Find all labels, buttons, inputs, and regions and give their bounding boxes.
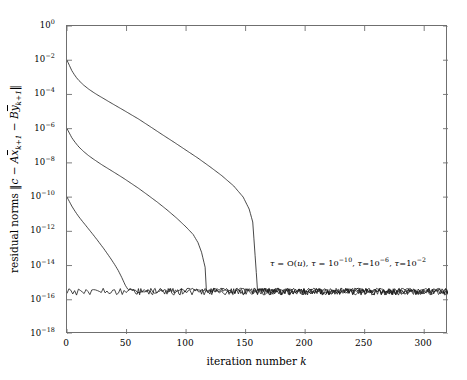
- y-tick-label: 10−14: [30, 260, 55, 270]
- plot-area: [66, 25, 447, 333]
- y-axis-label-container: residual norms ‖c − Axk+1 − Byk+1‖: [4, 25, 24, 333]
- x-tick-label: 300: [415, 338, 432, 348]
- y-tick-label: 10−8: [34, 157, 55, 167]
- curve-tau-10-10: [67, 197, 448, 295]
- curve-annotation-labels: τ = O(u), τ = 10−10, τ=10−6, τ=10−2: [270, 258, 426, 268]
- figure-canvas: 10010−210−410−610−810−1010−1210−1410−161…: [0, 0, 467, 380]
- y-tick-label: 10−4: [34, 88, 55, 98]
- y-tick-label: 10−6: [34, 123, 55, 133]
- x-tick-label: 150: [236, 338, 253, 348]
- x-axis-tick-labels: 050100150200250300: [66, 338, 447, 354]
- plot-svg: [67, 26, 448, 334]
- y-tick-label: 10−16: [30, 294, 55, 304]
- curve-tau-10-6: [67, 129, 448, 295]
- x-axis-label: iteration number k: [66, 355, 447, 367]
- y-axis-label: residual norms ‖c − Axk+1 − Byk+1‖: [8, 85, 20, 273]
- y-tick-label: 10−12: [30, 225, 55, 235]
- y-tick-label: 10−18: [30, 328, 55, 338]
- x-tick-label: 250: [355, 338, 372, 348]
- y-tick-label: 100: [40, 20, 55, 30]
- y-tick-label: 10−2: [34, 54, 55, 64]
- x-tick-label: 100: [176, 338, 193, 348]
- y-tick-label: 10−10: [30, 191, 55, 201]
- x-tick-label: 200: [296, 338, 313, 348]
- x-tick-label: 50: [120, 338, 131, 348]
- x-tick-label: 0: [63, 338, 69, 348]
